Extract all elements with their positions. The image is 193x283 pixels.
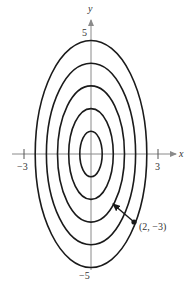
- x-tick-label-neg3: −3: [17, 161, 28, 172]
- point-marker: [131, 219, 136, 224]
- y-axis-label: y: [87, 3, 93, 14]
- point-label: (2, −3): [139, 221, 166, 233]
- plot-canvas: y x 5 −5 −3 3 (2, −3): [0, 0, 193, 283]
- x-axis-label: x: [178, 148, 184, 159]
- y-tick-label-neg5: −5: [79, 270, 90, 281]
- y-tick-label-5: 5: [82, 27, 87, 38]
- x-tick-label-3: 3: [155, 161, 160, 172]
- level-curves-figure: y x 5 −5 −3 3 (2, −3): [0, 0, 193, 283]
- direction-arrow: [113, 204, 134, 222]
